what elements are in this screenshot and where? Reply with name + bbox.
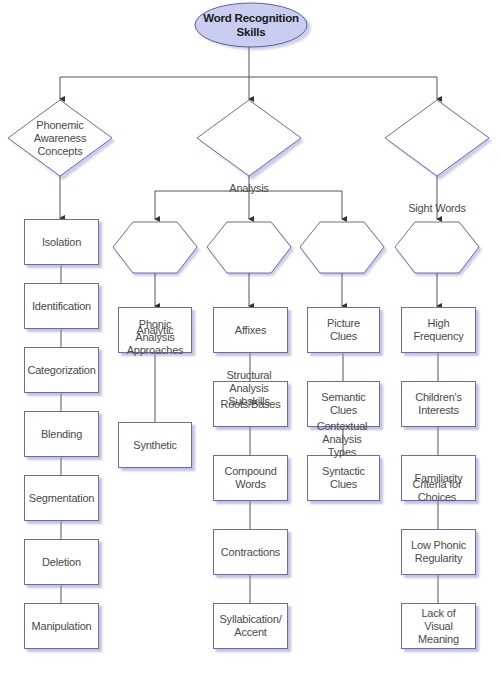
box-deletion: Deletion	[24, 539, 99, 585]
box-label: Picture Clues	[322, 317, 365, 343]
box-label: Lack of Visual Meaning	[416, 607, 461, 646]
box-label: Isolation	[42, 236, 81, 249]
label-line: Analysis	[229, 382, 268, 395]
label-line: Types	[328, 446, 356, 459]
box-high-frequency: High Frequency	[401, 307, 476, 353]
box-manipulation: Manipulation	[24, 603, 99, 649]
box-synthetic: Synthetic	[118, 422, 192, 468]
contextual-analysis-types-label: Contextual Analysis Types	[302, 414, 382, 465]
label-line: Approaches	[127, 344, 184, 357]
box-label: Syllabication/ Accent	[218, 613, 283, 639]
label-line: Choices	[418, 491, 456, 504]
hexagon-contextual	[300, 222, 387, 276]
box-identification: Identification	[24, 283, 99, 329]
label-line: Analysis	[135, 331, 174, 344]
box-picture-clues: Picture Clues	[307, 307, 380, 353]
box-label: Identification	[32, 300, 91, 313]
box-isolation: Isolation	[24, 219, 99, 265]
root-node-label: Word Recognition Skills	[195, 5, 307, 45]
box-label: Deletion	[42, 556, 81, 569]
box-label: Manipulation	[32, 620, 92, 633]
box-lack-of-visual-meaning: Lack of Visual Meaning	[401, 603, 476, 649]
label-line: Analysis	[322, 433, 361, 446]
box-label: Blending	[41, 428, 82, 441]
box-affixes: Affixes	[213, 307, 288, 353]
label-line: Concepts	[38, 145, 83, 158]
box-label: Contractions	[221, 546, 280, 559]
label-line: Phonic	[139, 318, 171, 331]
sight-words-label: Sight Words	[392, 198, 482, 218]
box-categorization: Categorization	[24, 347, 99, 393]
box-label: Low Phonic Regularity	[408, 539, 469, 565]
box-label: Segmentation	[29, 492, 94, 505]
hexagon-structural	[207, 222, 294, 276]
hexagon-phonic	[113, 222, 200, 276]
diamond-analysis	[197, 100, 304, 180]
box-blending: Blending	[24, 411, 99, 457]
analysis-label: Analysis	[209, 178, 289, 198]
phonic-analysis-approaches-label: Phonic Analysis Approaches	[115, 312, 195, 363]
box-label: Affixes	[235, 324, 266, 337]
root-label-line2: Skills	[237, 25, 266, 39]
label-line: Structural	[226, 369, 271, 382]
box-label: High Frequency	[408, 317, 469, 343]
label-line: Subskills	[228, 395, 270, 408]
box-label: Categorization	[27, 364, 95, 377]
criteria-for-choices-label: Criteria for Choices	[397, 465, 477, 516]
box-segmentation: Segmentation	[24, 475, 99, 521]
diamond-sight	[385, 100, 492, 180]
box-contractions: Contractions	[213, 529, 288, 575]
hexagon-criteria	[395, 222, 482, 276]
box-childrens-interests: Children's Interests	[401, 381, 476, 427]
label-line: Criteria for	[413, 478, 462, 491]
box-label: Children's Interests	[410, 391, 467, 417]
box-label: Compound Words	[224, 465, 276, 491]
label-line: Contextual	[317, 420, 368, 433]
structural-analysis-subskills-label: Structural Analysis Subskills	[209, 363, 289, 414]
label-line: Phonemic	[36, 119, 83, 132]
label-line: Analysis	[229, 182, 268, 195]
phonemic-awareness-label: Phonemic Awareness Concepts	[20, 113, 100, 163]
box-syllabication-accent: Syllabication/ Accent	[213, 603, 288, 649]
label-line: Awareness	[34, 132, 86, 145]
box-label: Syntactic Clues	[320, 465, 367, 491]
box-compound-words: Compound Words	[213, 455, 288, 501]
word-recognition-diagram: Word Recognition Skills Phonemic Awarene…	[0, 0, 500, 676]
box-label: Synthetic	[133, 439, 176, 452]
label-line: Sight Words	[408, 202, 466, 215]
root-label-line1: Word Recognition	[203, 11, 299, 25]
box-low-phonic-regularity: Low Phonic Regularity	[401, 529, 476, 575]
